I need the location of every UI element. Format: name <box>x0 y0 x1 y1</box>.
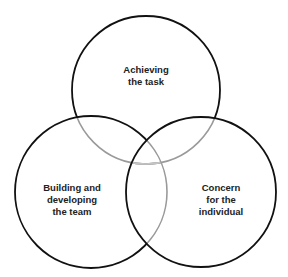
label-line: Concern <box>199 182 243 194</box>
label-concern-individual: Concern for the individual <box>199 182 243 218</box>
label-line: individual <box>199 206 243 218</box>
label-building-team: Building and developing the team <box>43 182 101 218</box>
venn-diagram <box>0 0 288 277</box>
label-line: for the <box>199 194 243 206</box>
label-line: the task <box>123 76 168 88</box>
label-achieving-task: Achieving the task <box>123 64 168 88</box>
label-line: Achieving <box>123 64 168 76</box>
label-line: developing <box>43 194 101 206</box>
label-line: the team <box>43 206 101 218</box>
label-line: Building and <box>43 182 101 194</box>
